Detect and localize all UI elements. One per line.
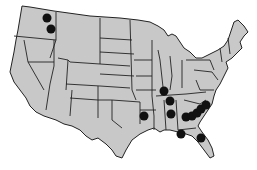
marker-dot[interactable] — [197, 134, 206, 143]
marker-dot[interactable] — [166, 97, 175, 106]
us-map-svg — [0, 0, 257, 170]
marker-dot[interactable] — [202, 101, 211, 110]
us-map — [0, 0, 257, 170]
marker-dot[interactable] — [177, 130, 186, 139]
marker-dot[interactable] — [167, 110, 176, 119]
us-outline — [10, 6, 248, 158]
marker-dot[interactable] — [43, 14, 52, 23]
marker-dot[interactable] — [140, 112, 149, 121]
marker-dot[interactable] — [47, 25, 56, 34]
marker-dot[interactable] — [160, 87, 169, 96]
